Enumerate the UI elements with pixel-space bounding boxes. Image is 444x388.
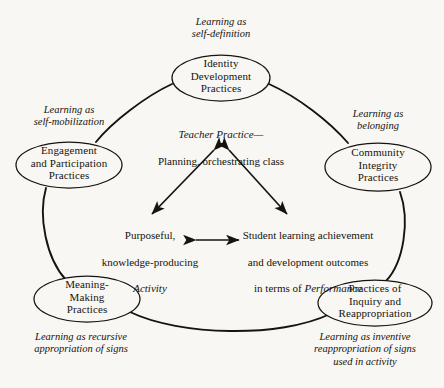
caption-learning-as-inventive-reappropriation: Learning as inventive reappropriation of… xyxy=(290,331,440,368)
activity-line3: Activity xyxy=(133,282,167,294)
center-label-activity: Purposeful, knowledge-producing Activity xyxy=(98,216,202,295)
arc-engagement-to-meaning xyxy=(43,188,66,280)
figure-canvas: Identity Development Practices Engagemen… xyxy=(0,0,444,388)
caption-learning-as-recursive-appropriation-of-signs: Learning as recursive appropriation of s… xyxy=(10,331,152,356)
node-label-engagement-and-participation-practices: Engagement and Participation Practices xyxy=(13,144,125,182)
outcomes-line2: and development outcomes xyxy=(248,256,368,268)
arc-meaning-to-inquiry xyxy=(130,312,330,331)
node-label-community-integrity-practices: Community Integrity Practices xyxy=(324,146,432,184)
node-label-identity-development-practices: Identity Development Practices xyxy=(171,57,271,95)
teacher-practice-line1: Teacher Practice— xyxy=(179,128,264,140)
arc-community-to-inquiry xyxy=(386,192,405,281)
activity-line1: Purposeful, xyxy=(125,229,175,241)
caption-learning-as-self-definition: Learning as self-definition xyxy=(160,16,282,41)
outcomes-line3-prefix: in terms of xyxy=(254,282,304,294)
outcomes-line3-performance: Performance xyxy=(304,282,361,294)
center-label-outcomes: Student learning achievement and develop… xyxy=(232,216,384,295)
caption-learning-as-self-mobilization: Learning as self-mobilization xyxy=(8,104,130,129)
outcomes-line1: Student learning achievement xyxy=(243,229,374,241)
center-label-teacher-practice: Teacher Practice— Planning, orchestratin… xyxy=(125,115,317,168)
activity-line2: knowledge-producing xyxy=(102,256,199,268)
teacher-practice-line2: Planning, orchestrating class xyxy=(158,155,284,167)
caption-learning-as-belonging: Learning as belonging xyxy=(320,108,436,133)
